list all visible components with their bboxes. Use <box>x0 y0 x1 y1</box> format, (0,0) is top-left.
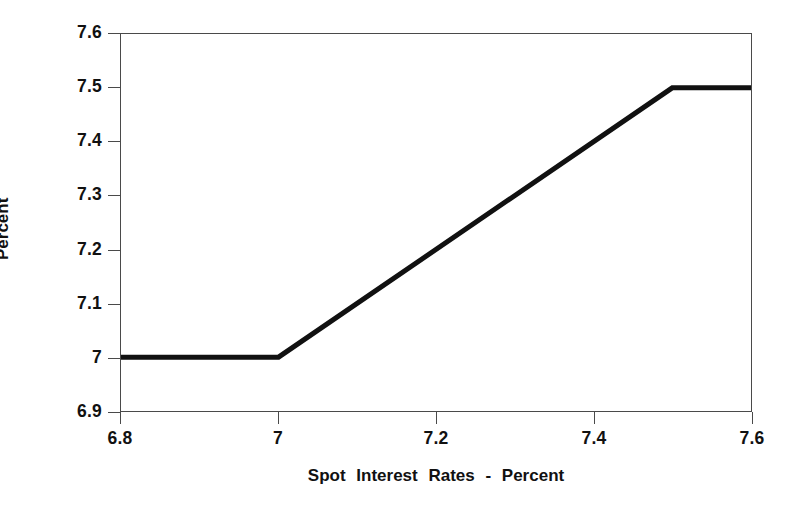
y-tick-label: 7.4 <box>12 130 102 151</box>
y-tick-mark <box>108 87 120 88</box>
x-tick-mark <box>436 412 437 424</box>
x-tick-label: 7.4 <box>534 428 654 449</box>
data-line-svg <box>121 34 751 411</box>
y-tick-mark <box>108 195 120 196</box>
y-tick-mark <box>108 33 120 34</box>
x-tick-label: 7.6 <box>692 428 810 449</box>
x-axis-label: Spot Interest Rates - Percent <box>120 466 752 486</box>
x-tick-label: 6.8 <box>60 428 180 449</box>
y-tick-label: 6.9 <box>12 401 102 422</box>
y-tick-mark <box>108 250 120 251</box>
y-tick-label: 7 <box>12 347 102 368</box>
y-tick-label: 7.3 <box>12 184 102 205</box>
x-tick-mark <box>752 412 753 424</box>
y-tick-label: 7.1 <box>12 293 102 314</box>
y-tick-mark <box>108 412 120 413</box>
x-tick-mark <box>594 412 595 424</box>
chart-figure: 6.977.17.27.37.47.57.6 6.877.27.47.6 Spo… <box>0 0 810 514</box>
y-tick-mark <box>108 358 120 359</box>
y-tick-mark <box>108 141 120 142</box>
x-tick-label: 7.2 <box>376 428 496 449</box>
x-tick-mark <box>278 412 279 424</box>
y-axis-label: Percent <box>0 224 85 260</box>
x-tick-mark <box>120 412 121 424</box>
y-tick-mark <box>108 304 120 305</box>
y-tick-label: 7.5 <box>12 76 102 97</box>
y-tick-label: 7.6 <box>12 22 102 43</box>
x-tick-label: 7 <box>218 428 338 449</box>
plot-area <box>120 33 752 412</box>
data-line-series-payoff <box>121 88 751 357</box>
